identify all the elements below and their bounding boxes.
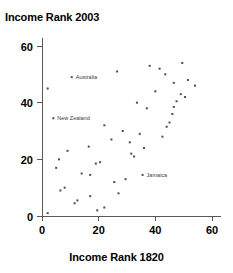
- data-point: [173, 82, 175, 84]
- data-point: [99, 161, 101, 163]
- data-point: [133, 156, 135, 158]
- data-point: [88, 146, 90, 148]
- data-point: [173, 106, 175, 108]
- data-point: [74, 202, 76, 204]
- data-point: [164, 73, 166, 75]
- data-point: [139, 133, 141, 135]
- data-point: [95, 163, 97, 165]
- data-point: [89, 174, 91, 176]
- x-axis-tick-label: 60: [206, 224, 218, 236]
- data-point: [103, 124, 105, 126]
- data-point: [154, 90, 156, 92]
- data-point: [130, 153, 132, 155]
- data-point: [146, 107, 148, 109]
- y-axis-tick-label: 0: [27, 211, 33, 223]
- data-point: [76, 199, 78, 201]
- data-point: [113, 181, 115, 183]
- plot-area: 02040600204060New ZealandAustraliaJamaic…: [0, 0, 233, 248]
- data-point-label: Jamaica: [147, 172, 168, 178]
- data-point-label: Australia: [76, 74, 98, 80]
- data-point: [47, 88, 49, 90]
- x-axis-tick-label: 40: [149, 224, 161, 236]
- data-point: [171, 113, 173, 115]
- data-point: [103, 207, 105, 209]
- data-point: [166, 126, 168, 128]
- data-point: [180, 93, 182, 95]
- data-point: [176, 100, 178, 102]
- data-point: [81, 173, 83, 175]
- data-point: [129, 141, 131, 143]
- y-axis-tick-label: 20: [21, 154, 33, 166]
- data-point: [125, 178, 127, 180]
- data-point: [187, 79, 189, 81]
- data-point: [96, 209, 98, 211]
- data-point: [116, 71, 118, 73]
- data-point: [184, 96, 186, 98]
- data-point: [67, 150, 69, 152]
- data-point: [194, 85, 196, 87]
- data-point: [47, 212, 49, 214]
- data-point: [122, 130, 124, 132]
- x-axis-tick-label: 20: [93, 224, 105, 236]
- data-point: [89, 195, 91, 197]
- data-point: [142, 174, 144, 176]
- data-point: [64, 187, 66, 189]
- data-point: [136, 102, 138, 104]
- data-point-label: New Zealand: [57, 115, 89, 121]
- data-point: [169, 122, 171, 124]
- data-point: [181, 62, 183, 64]
- x-axis-tick-label: 0: [39, 224, 45, 236]
- data-point: [161, 136, 163, 138]
- data-point: [159, 68, 161, 70]
- data-point: [143, 147, 145, 149]
- data-point: [55, 167, 57, 169]
- data-point: [149, 65, 151, 67]
- data-point: [71, 76, 73, 78]
- data-point: [110, 139, 112, 141]
- y-axis-tick-label: 40: [21, 97, 33, 109]
- scatter-chart-figure: Income Rank 2003 02040600204060New Zeala…: [0, 0, 233, 273]
- data-point: [118, 192, 120, 194]
- data-point: [52, 117, 54, 119]
- y-axis-tick-label: 60: [21, 41, 33, 53]
- data-point: [58, 158, 60, 160]
- x-axis-title: Income Rank 1820: [0, 251, 233, 263]
- data-point: [59, 190, 61, 192]
